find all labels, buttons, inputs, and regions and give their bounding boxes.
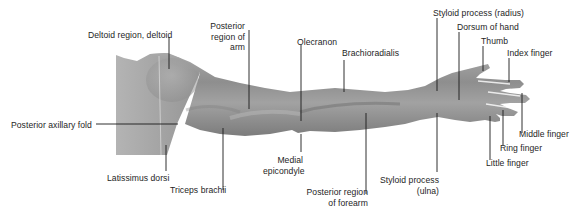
label-line: Medial: [263, 155, 303, 166]
label-deltoid: Deltoid region, deltoid: [88, 30, 172, 41]
label-line: Posterior region: [300, 187, 368, 198]
label-styloid-process-ulna: Styloid process (ulna): [378, 175, 439, 196]
label-styloid-process-radius: Styloid process (radius): [433, 8, 524, 19]
label-brachioradialis: Brachioradialis: [342, 48, 399, 59]
label-thumb: Thumb: [481, 36, 508, 47]
label-posterior-axillary-fold: Posterior axillary fold: [11, 120, 92, 131]
arm-shape: [150, 53, 530, 136]
label-olecranon: Olecranon: [297, 37, 337, 48]
label-posterior-region-arm: Posterior region of arm: [205, 21, 245, 53]
deltoid-shade: [146, 58, 198, 102]
label-line: Posterior: [205, 21, 245, 32]
label-line: Styloid process: [378, 175, 439, 186]
label-middle-finger: Middle finger: [519, 129, 569, 140]
label-line: of forearm: [300, 198, 368, 209]
label-dorsum-of-hand: Dorsum of hand: [457, 22, 519, 33]
label-triceps-brachii: Triceps brachii: [170, 185, 226, 196]
label-line: arm: [205, 42, 245, 53]
anatomy-figure: Deltoid region, deltoid Posterior axilla…: [0, 0, 577, 215]
label-posterior-region-forearm: Posterior region of forearm: [300, 187, 368, 208]
label-line: epicondyle: [263, 166, 303, 177]
label-latissimus-dorsi: Latissimus dorsi: [107, 173, 169, 184]
label-ring-finger: Ring finger: [500, 143, 542, 154]
label-medial-epicondyle: Medial epicondyle: [263, 155, 303, 176]
label-line: region of: [205, 32, 245, 43]
label-index-finger: Index finger: [507, 48, 553, 59]
label-line: (ulna): [378, 186, 439, 197]
label-little-finger: Little finger: [486, 158, 529, 169]
